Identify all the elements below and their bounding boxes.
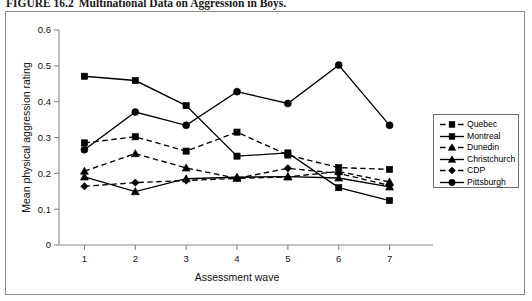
data-point-pittsburgh [386, 122, 393, 129]
legend-label-cdp: CDP [467, 165, 485, 176]
y-tick-label: 0.6 [38, 24, 51, 35]
data-point-cdp [182, 177, 189, 184]
legend-key-montreal-icon [439, 131, 465, 142]
data-point-cdp [81, 183, 88, 190]
legend-key-pittsburgh-icon [439, 177, 465, 188]
x-tick-label: 4 [234, 253, 239, 264]
legend-item-cdp: CDP [439, 165, 513, 176]
figure-root: FIGURE 16.2Multinational Data on Aggress… [0, 0, 532, 301]
data-point-cdp [284, 165, 291, 172]
legend-key-cdp-icon [439, 165, 465, 176]
legend-item-dunedin: Dunedin [439, 142, 513, 153]
series-quebec [81, 129, 392, 172]
data-point-pittsburgh [284, 100, 291, 107]
data-point-cdp [132, 179, 139, 186]
data-point-montreal [234, 153, 240, 159]
data-point-pittsburgh [81, 146, 88, 153]
data-point-montreal [183, 103, 189, 109]
legend-label-dunedin: Dunedin [467, 142, 499, 153]
legend-key-christchurch-icon [439, 154, 465, 165]
data-point-pittsburgh [335, 62, 342, 69]
data-point-quebec [81, 140, 87, 146]
legend-item-pittsburgh: Pittsburgh [439, 177, 513, 188]
legend-item-christchurch: Christchurch [439, 154, 513, 165]
legend-item-montreal: Montreal [439, 131, 513, 142]
legend-key-quebec-icon [439, 119, 465, 130]
x-tick-label: 5 [285, 253, 290, 264]
y-tick-label: 0.1 [38, 204, 51, 215]
x-axis-title: Assessment wave [195, 271, 280, 283]
y-axis-title: Mean physical aggression rating [20, 62, 32, 213]
data-point-pittsburgh [132, 109, 139, 116]
legend-label-pittsburgh: Pittsburgh [467, 177, 506, 188]
x-tick-label: 3 [183, 253, 188, 264]
data-point-montreal [81, 73, 87, 79]
legend-label-quebec: Quebec [467, 119, 497, 130]
data-point-montreal [336, 185, 342, 191]
x-tick-label: 6 [336, 253, 341, 264]
data-point-quebec [183, 148, 189, 154]
data-point-montreal [285, 150, 291, 156]
series-pittsburgh [81, 62, 393, 154]
legend-item-quebec: Quebec [439, 119, 513, 130]
y-tick-label: 0 [46, 239, 51, 250]
data-point-montreal [386, 197, 392, 203]
data-point-dunedin [131, 150, 139, 157]
axes-layer [54, 30, 433, 250]
series-line-quebec [84, 132, 389, 169]
legend-key-dunedin-icon [439, 142, 465, 153]
data-point-quebec [132, 134, 138, 140]
data-point-montreal [132, 77, 138, 83]
y-tick-label: 0.5 [38, 60, 51, 71]
x-tick-label: 7 [387, 253, 392, 264]
data-point-pittsburgh [234, 88, 241, 95]
y-tick-label: 0.4 [38, 96, 51, 107]
x-tick-label: 1 [82, 253, 87, 264]
data-point-quebec [386, 166, 392, 172]
chart-legend: Quebec Montreal Dunedin Christchurch CDP… [433, 114, 519, 188]
y-tick-label: 0.2 [38, 168, 51, 179]
x-tick-label: 2 [133, 253, 138, 264]
data-point-quebec [234, 129, 240, 135]
legend-label-montreal: Montreal [467, 131, 500, 142]
series-layer [80, 62, 393, 204]
y-tick-label: 0.3 [38, 132, 51, 143]
data-point-pittsburgh [183, 122, 190, 129]
legend-label-christchurch: Christchurch [467, 154, 515, 165]
